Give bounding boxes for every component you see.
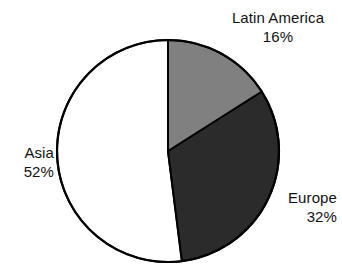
slice-label-latin-america: Latin America 16% [222, 8, 334, 46]
pie-slice-asia [57, 40, 182, 262]
slice-label-europe-value: 32% [237, 207, 337, 226]
slice-label-europe: Europe 32% [237, 188, 337, 226]
slice-label-asia-name: Asia [2, 143, 54, 162]
slice-label-latin-america-name: Latin America [222, 8, 334, 27]
slice-label-europe-name: Europe [237, 188, 337, 207]
pie-chart-figure: Latin America 16% Europe 32% Asia 52% [0, 0, 342, 277]
slice-label-asia-value: 52% [2, 162, 54, 181]
slice-label-asia: Asia 52% [2, 143, 54, 181]
slice-label-latin-america-value: 16% [222, 27, 334, 46]
